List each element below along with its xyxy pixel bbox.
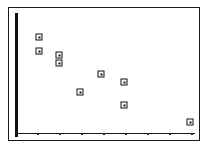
data-point-marker — [121, 102, 128, 109]
data-point-marker — [56, 52, 63, 59]
data-point-marker — [77, 89, 84, 96]
x-axis-tick-dot — [191, 133, 193, 135]
x-axis-tick-dot — [37, 133, 39, 135]
data-point-marker — [187, 119, 194, 126]
x-axis-tick-dot — [81, 133, 83, 135]
data-point-marker — [121, 79, 128, 86]
x-axis-tick-dot — [103, 133, 105, 135]
x-axis-tick-dot — [169, 133, 171, 135]
data-point-marker — [36, 34, 43, 41]
data-point-marker — [98, 71, 105, 78]
figure-frame — [8, 7, 200, 141]
plot-area — [9, 8, 199, 140]
x-axis-tick-dot — [147, 133, 149, 135]
data-point-marker — [36, 48, 43, 55]
data-point-marker — [56, 60, 63, 67]
x-axis-tick-dot — [59, 133, 61, 135]
scatter-plot-screenshot — [0, 0, 209, 150]
x-axis-tick-dot — [125, 133, 127, 135]
